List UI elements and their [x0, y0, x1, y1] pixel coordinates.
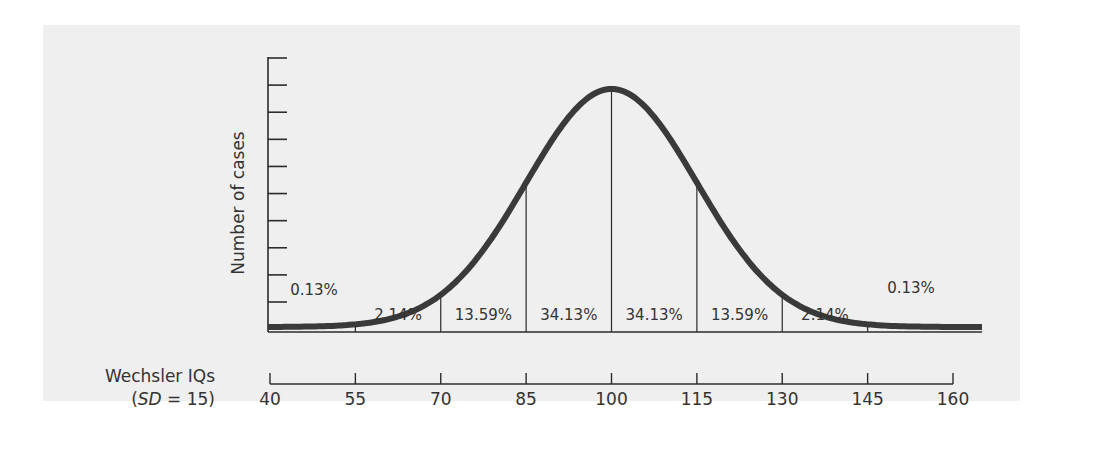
region-label: 13.59%	[711, 306, 768, 324]
iq-tick-label: 55	[345, 389, 367, 409]
region-dividers	[268, 91, 982, 332]
iq-axis: 40557085100115130145160	[259, 373, 969, 409]
region-percent-labels: 0.13%2.14%13.59%34.13%34.13%13.59%2.14%0…	[290, 279, 935, 324]
iq-tick-label: 70	[430, 389, 452, 409]
normal-distribution-chart: Number of cases 0.13%2.14%13.59%34.13%34…	[0, 0, 1115, 456]
x-axis-sd-label: (SD = 15)	[131, 389, 215, 409]
iq-tick-label: 145	[851, 389, 883, 409]
y-axis	[268, 57, 287, 332]
region-label: 34.13%	[626, 306, 683, 324]
region-label: 2.14%	[801, 306, 849, 324]
region-label: 34.13%	[540, 306, 597, 324]
region-label: 2.14%	[374, 306, 422, 324]
iq-tick-label: 100	[595, 389, 627, 409]
iq-tick-label: 85	[515, 389, 537, 409]
region-label: 0.13%	[290, 281, 338, 299]
bell-curve	[268, 89, 982, 327]
x-axis-label: Wechsler IQs	[105, 366, 215, 386]
y-axis-label: Number of cases	[228, 131, 248, 275]
iq-tick-label: 40	[259, 389, 281, 409]
iq-tick-label: 115	[681, 389, 713, 409]
iq-tick-label: 130	[766, 389, 798, 409]
region-label: 0.13%	[887, 279, 935, 297]
iq-tick-label: 160	[937, 389, 969, 409]
region-label: 13.59%	[455, 306, 512, 324]
